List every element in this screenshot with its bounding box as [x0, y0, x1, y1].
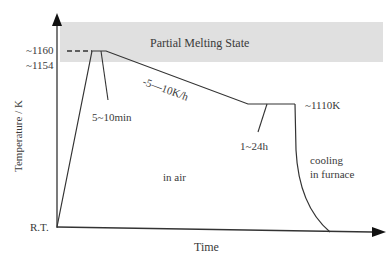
x-axis-arrow-icon — [372, 227, 386, 237]
hold-temp-label: ~1110K — [305, 100, 340, 111]
tick-rt: R.T. — [30, 222, 49, 233]
hold-peak-label: 5~10min — [92, 112, 132, 123]
y-axis-label: Temperature / K — [12, 100, 24, 172]
band-label: Partial Melting State — [150, 37, 249, 49]
hold-long-label: 1~24h — [240, 141, 268, 152]
cooling-label-2: in furnace — [310, 169, 354, 180]
hold-long-pointer — [258, 104, 267, 132]
temperature-profile — [57, 51, 295, 227]
environment-label: in air — [163, 172, 186, 183]
x-axis-label: Time — [194, 241, 219, 253]
y-axis-arrow-icon — [52, 13, 62, 26]
cooling-label-1: cooling — [310, 155, 343, 166]
tick-1160: ~1160 — [26, 45, 54, 56]
tick-1154: ~1154 — [26, 60, 54, 71]
